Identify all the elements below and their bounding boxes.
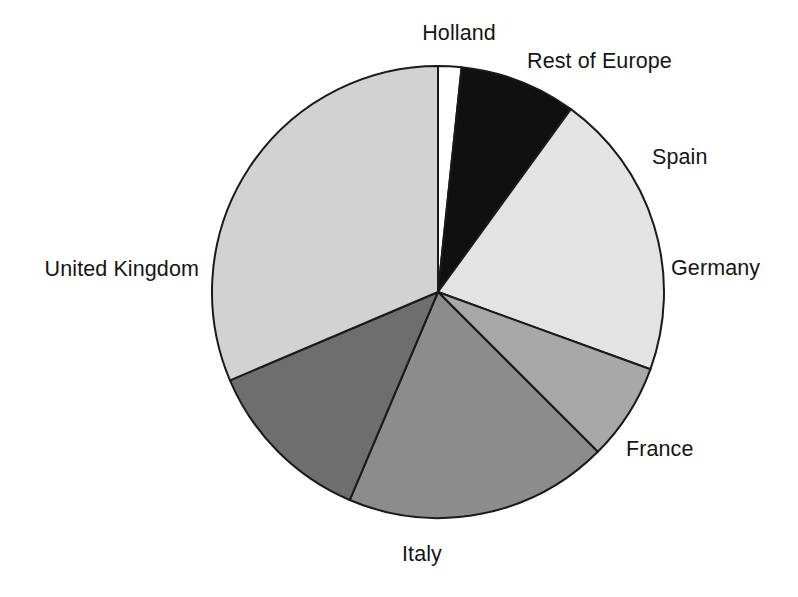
chart-canvas: HollandRest of EuropeSpainGermanyFranceI…: [0, 0, 798, 597]
pie-label-germany: Germany: [671, 257, 760, 280]
pie-label-united-kingdom: United Kingdom: [45, 258, 199, 281]
pie-label-france: France: [626, 438, 694, 461]
pie-label-holland: Holland: [422, 22, 496, 45]
pie-label-italy: Italy: [402, 543, 442, 566]
pie-slice-group: [212, 66, 664, 518]
pie-chart: [0, 0, 798, 597]
pie-label-spain: Spain: [652, 146, 708, 169]
pie-label-rest-of-europe: Rest of Europe: [527, 50, 672, 73]
